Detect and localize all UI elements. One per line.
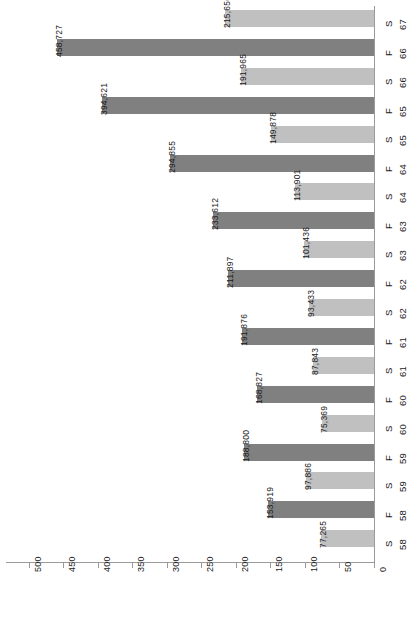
category-year-label: 58 (397, 510, 408, 521)
bar (228, 270, 374, 287)
category-term-label: F (383, 223, 394, 229)
category-term-label: S (383, 425, 394, 432)
category-term-label: F (383, 50, 394, 56)
axis-tick (339, 563, 340, 568)
bar (321, 530, 374, 547)
category-axis-line (374, 6, 375, 562)
category-year-label: 65 (397, 106, 408, 117)
axis-tick (132, 563, 133, 568)
category-year-label: 63 (397, 221, 408, 232)
bar (257, 386, 374, 403)
bar-value-label: 113,901 (292, 170, 302, 202)
bar (309, 299, 374, 316)
bar (225, 10, 374, 27)
bar-value-label: 77,265 (318, 521, 328, 548)
category-term-label: S (383, 194, 394, 201)
plot-area: 050100150200250300350400450500 215,65645… (0, 0, 414, 618)
bar-value-label: 153,919 (265, 487, 275, 519)
bar-value-label: 168,827 (254, 372, 264, 404)
category-year-label: 61 (397, 337, 408, 348)
axis-tick (305, 563, 306, 568)
bar-value-label: 97,886 (303, 463, 313, 490)
category-term-label: S (383, 20, 394, 27)
category-term-label: S (383, 367, 394, 374)
category-year-label: 64 (397, 163, 408, 174)
category-term-label: F (383, 108, 394, 114)
bar (322, 415, 374, 432)
category-term-label: S (383, 78, 394, 85)
bar-value-label: 191,965 (238, 54, 248, 86)
bar (170, 155, 374, 172)
category-year-label: 66 (397, 77, 408, 88)
axis-tick (236, 563, 237, 568)
axis-tick (29, 563, 30, 568)
bar-value-label: 191,876 (239, 314, 249, 346)
category-term-label: S (383, 252, 394, 259)
category-year-label: 64 (397, 192, 408, 203)
category-term-label: F (383, 454, 394, 460)
axis-tick (167, 563, 168, 568)
category-term-label: S (383, 483, 394, 490)
axis-tick-label: 150 (274, 556, 284, 572)
bar (242, 328, 374, 345)
bar (241, 68, 374, 85)
axis-tick (98, 563, 99, 568)
category-term-label: F (383, 165, 394, 171)
bar-value-label: 75,369 (319, 405, 329, 432)
axis-tick (201, 563, 202, 568)
category-year-label: 59 (397, 481, 408, 492)
category-year-label: 62 (397, 279, 408, 290)
category-year-label: 66 (397, 48, 408, 59)
bar-value-label: 215,656 (222, 0, 232, 28)
bar (213, 212, 374, 229)
bar (244, 444, 374, 461)
bar-value-label: 458,727 (54, 25, 64, 57)
category-term-label: S (383, 309, 394, 316)
bar-value-label: 87,843 (310, 348, 320, 375)
bar (304, 241, 374, 258)
bar (271, 126, 374, 143)
axis-tick (374, 563, 375, 568)
bar (306, 472, 374, 489)
value-axis-line (6, 562, 375, 563)
axis-tick-label: 350 (136, 556, 146, 572)
bar-value-label: 149,878 (268, 111, 278, 143)
category-year-label: 62 (397, 308, 408, 319)
bar-value-label: 394,621 (99, 83, 109, 115)
bar-value-label: 211,897 (225, 257, 235, 289)
axis-tick-label: 250 (205, 556, 215, 572)
axis-tick-label: 0 (378, 567, 388, 572)
axis-tick-label: 100 (309, 556, 319, 572)
bar (268, 501, 374, 518)
category-year-label: 67 (397, 19, 408, 30)
chart-figure: 050100150200250300350400450500 215,65645… (0, 0, 414, 618)
bar-value-label: 101,436 (301, 227, 311, 259)
axis-tick-label: 300 (171, 556, 181, 572)
axis-tick-label: 400 (102, 556, 112, 572)
category-term-label: F (383, 339, 394, 345)
category-term-label: S (383, 541, 394, 548)
axis-tick-label: 50 (343, 562, 353, 572)
category-year-label: 60 (397, 423, 408, 434)
bar (295, 183, 374, 200)
bar (102, 97, 374, 114)
axis-tick-label: 450 (67, 556, 77, 572)
category-year-label: 60 (397, 395, 408, 406)
category-term-label: S (383, 136, 394, 143)
category-term-label: F (383, 512, 394, 518)
bar (57, 39, 374, 56)
category-year-label: 63 (397, 250, 408, 261)
axis-tick-label: 200 (240, 556, 250, 572)
axis-tick-label: 500 (33, 556, 43, 572)
axis-tick (63, 563, 64, 568)
category-term-label: F (383, 397, 394, 403)
bar-value-label: 93,433 (306, 290, 316, 317)
category-year-label: 61 (397, 366, 408, 377)
category-year-label: 59 (397, 452, 408, 463)
bar-value-label: 188,800 (241, 429, 251, 461)
bar-value-label: 233,612 (210, 198, 220, 230)
category-term-label: F (383, 281, 394, 287)
category-year-label: 58 (397, 539, 408, 550)
bar (313, 357, 374, 374)
category-year-label: 65 (397, 134, 408, 145)
